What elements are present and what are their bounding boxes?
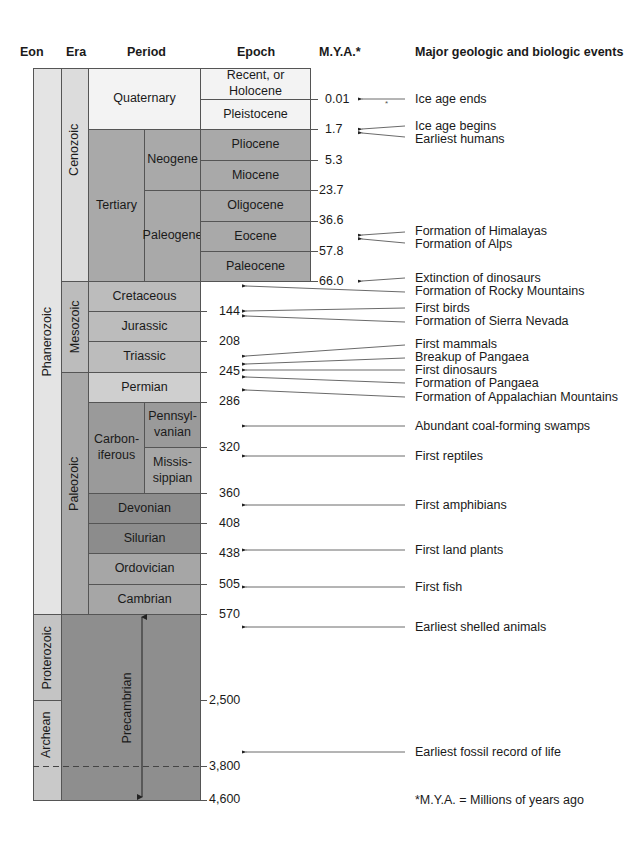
mya-1-7: 1.7: [325, 122, 342, 136]
event-sierra-nevada: Formation of Sierra Nevada: [415, 314, 569, 328]
event-himalayas: Formation of Himalayas: [415, 224, 547, 238]
event-coal-swamps: Abundant coal-forming swamps: [415, 419, 590, 433]
event-earliest-fossil: Earliest fossil record of life: [415, 745, 561, 759]
mya-3800: 3,800: [209, 759, 240, 773]
mya-23-7: 23.7: [319, 183, 343, 197]
mya-360: 360: [219, 486, 240, 500]
event-first-mammals: First mammals: [415, 337, 497, 351]
mya-438: 438: [219, 546, 240, 560]
event-first-land-plants: First land plants: [415, 543, 503, 557]
svg-text:*: *: [385, 99, 388, 108]
mya-320: 320: [219, 440, 240, 454]
footnote: *M.Y.A. = Millions of years ago: [415, 793, 584, 807]
event-rocky-mountains: Formation of Rocky Mountains: [415, 284, 585, 298]
mya-66-0: 66.0: [319, 274, 343, 288]
event-shelled-animals: Earliest shelled animals: [415, 620, 546, 634]
mya-36-6: 36.6: [319, 213, 343, 227]
event-earliest-humans: Earliest humans: [415, 132, 505, 146]
event-first-amphibians: First amphibians: [415, 498, 507, 512]
mya-408: 408: [219, 516, 240, 530]
event-formation-pangaea: Formation of Pangaea: [415, 376, 539, 390]
mya-208: 208: [219, 334, 240, 348]
mya-2500: 2,500: [209, 693, 240, 707]
event-extinction-dinosaurs: Extinction of dinosaurs: [415, 271, 541, 285]
mya-286: 286: [219, 394, 240, 408]
event-appalachian: Formation of Appalachian Mountains: [415, 390, 618, 404]
event-ice-age-ends: Ice age ends: [415, 92, 487, 106]
event-breakup-pangaea: Breakup of Pangaea: [415, 350, 529, 364]
mya-57-8: 57.8: [319, 244, 343, 258]
event-ice-age-begins: Ice age begins: [415, 119, 496, 133]
mya-144: 144: [219, 304, 240, 318]
mya-245: 245: [219, 364, 240, 378]
mya-0-01: 0.01: [325, 92, 349, 106]
mya-570: 570: [219, 607, 240, 621]
mya-4600: 4,600: [209, 792, 240, 806]
event-first-reptiles: First reptiles: [415, 449, 483, 463]
event-first-dinosaurs: First dinosaurs: [415, 363, 497, 377]
event-first-birds: First birds: [415, 301, 470, 315]
event-first-fish: First fish: [415, 580, 462, 594]
event-alps: Formation of Alps: [415, 237, 512, 251]
mya-5-3: 5.3: [325, 153, 342, 167]
mya-505: 505: [219, 577, 240, 591]
